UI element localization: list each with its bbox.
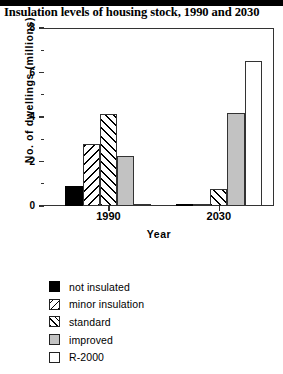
legend-label: standard	[69, 316, 111, 328]
bar	[210, 189, 227, 206]
legend-swatch	[49, 316, 60, 327]
y-tick-label: 8	[13, 22, 35, 33]
bar	[193, 204, 210, 206]
x-tick-label: 2030	[189, 210, 249, 222]
y-tick-major	[39, 116, 44, 117]
legend-label: R-2000	[69, 351, 104, 363]
legend-item: standard	[49, 313, 259, 331]
bar-group	[176, 28, 262, 206]
y-tick-major	[39, 205, 44, 206]
legend-swatch	[49, 352, 60, 363]
bar	[245, 61, 262, 206]
legend-label: improved	[69, 334, 113, 346]
x-tick-label: 1990	[78, 210, 138, 222]
legend-swatch	[49, 299, 60, 310]
legend-item: minor insulation	[49, 296, 259, 314]
bar	[134, 204, 151, 206]
x-axis-label: Year	[44, 228, 274, 240]
y-tick-minor	[41, 50, 44, 51]
y-tick-minor	[41, 94, 44, 95]
bar	[227, 113, 244, 206]
y-tick-label: 0	[13, 200, 35, 211]
bar-group	[65, 28, 151, 206]
legend-item: improved	[49, 331, 259, 349]
figure-title: Insulation levels of housing stock, 1990…	[4, 5, 279, 19]
bar	[100, 114, 117, 206]
y-tick-major	[39, 27, 44, 28]
legend-item: not insulated	[49, 278, 259, 296]
bar-chart: No. of dwellings (millions) 02468 199020…	[0, 22, 283, 222]
y-tick-minor	[41, 183, 44, 184]
legend-item: R-2000	[49, 348, 259, 366]
legend-label: not insulated	[69, 281, 130, 293]
y-tick-label: 6	[13, 67, 35, 78]
legend: not insulatedminor insulationstandardimp…	[49, 278, 259, 366]
y-tick-minor	[41, 139, 44, 140]
bar	[117, 156, 134, 206]
bar	[83, 144, 100, 206]
y-tick-major	[39, 72, 44, 73]
bar	[176, 204, 193, 206]
y-tick-label: 4	[13, 111, 35, 122]
y-tick-label: 2	[13, 156, 35, 167]
legend-swatch	[49, 334, 60, 345]
y-tick-major	[39, 161, 44, 162]
legend-swatch	[49, 281, 60, 292]
bar	[65, 186, 82, 206]
legend-label: minor insulation	[69, 298, 144, 310]
